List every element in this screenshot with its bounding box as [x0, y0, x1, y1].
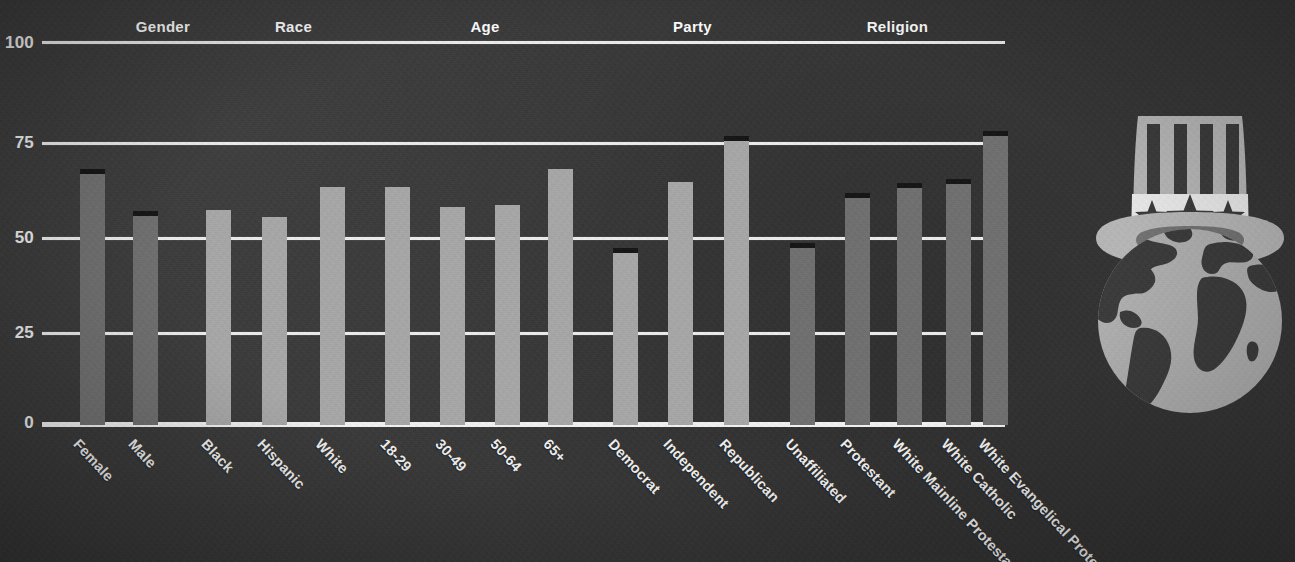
x-label-50-64: 50-64: [487, 436, 525, 475]
x-label-30-49: 30-49: [432, 436, 470, 475]
chart-container: Gender Race Age Party Religion 100 75 50…: [0, 0, 1295, 562]
x-label-black: Black: [198, 436, 237, 476]
x-label-democrat: Democrat: [605, 436, 663, 497]
x-label-male: Male: [125, 436, 159, 471]
uncle-sam-globe-logo: [1092, 116, 1288, 416]
x-label-18-29: 18-29: [377, 436, 415, 475]
x-label-female: Female: [70, 436, 117, 484]
x-label-65-plus: 65+: [540, 436, 569, 465]
x-label-white: White: [312, 436, 351, 477]
x-label-hispanic: Hispanic: [254, 436, 308, 492]
